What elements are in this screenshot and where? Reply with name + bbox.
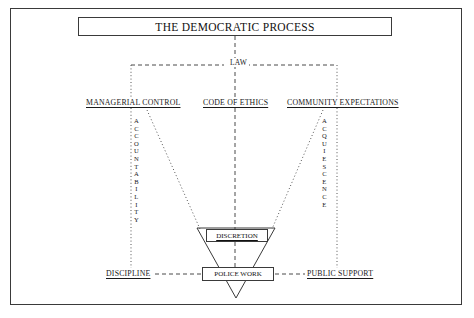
vertical-letter: U xyxy=(322,140,327,148)
vertical-label-accountability: A C C O U N T A B I L I T Y xyxy=(134,117,139,223)
vertical-letter: C xyxy=(322,193,326,201)
label-discipline: DISCIPLINE xyxy=(106,269,150,278)
page-title: THE DEMOCRATIC PROCESS xyxy=(155,21,314,33)
vertical-letter: E xyxy=(322,178,326,186)
vertical-letter: A xyxy=(134,117,139,125)
vertical-letter: C xyxy=(134,132,138,140)
vertical-letter: A xyxy=(134,170,139,178)
vertical-letter: C xyxy=(322,170,326,178)
diagram-canvas: THE DEMOCRATIC PROCESS LAW MANAGERIAL CO… xyxy=(0,0,474,318)
vertical-label-acquiescence: A C Q U I E S C E N C E xyxy=(322,117,327,208)
vertical-letter: T xyxy=(134,208,138,216)
label-law: LAW xyxy=(228,58,249,67)
label-discretion: DISCRETION xyxy=(216,232,258,240)
discretion-box: DISCRETION xyxy=(206,229,268,242)
vertical-letter: C xyxy=(322,125,326,133)
diagram-title-box: THE DEMOCRATIC PROCESS xyxy=(78,17,392,36)
label-public-support: PUBLIC SUPPORT xyxy=(307,269,373,278)
label-managerial-control: MANAGERIAL CONTROL xyxy=(86,98,181,107)
vertical-letter: I xyxy=(135,185,137,193)
vertical-letter: S xyxy=(323,163,327,171)
vertical-letter: U xyxy=(134,147,139,155)
vertical-letter: Q xyxy=(322,132,327,140)
vertical-letter: E xyxy=(322,201,326,209)
vertical-letter: L xyxy=(134,193,138,201)
vertical-letter: I xyxy=(135,201,137,209)
label-community-expectations: COMMUNITY EXPECTATIONS xyxy=(287,98,399,107)
label-code-of-ethics: CODE OF ETHICS xyxy=(203,98,268,107)
vertical-letter: A xyxy=(322,117,327,125)
vertical-letter: O xyxy=(134,140,139,148)
dotted-funnel-right xyxy=(272,110,323,229)
vertical-letter: T xyxy=(134,163,138,171)
vertical-letter: C xyxy=(134,125,138,133)
vertical-letter: Y xyxy=(134,216,139,224)
police-work-box: POLICE WORK xyxy=(202,267,274,281)
vertical-letter: N xyxy=(134,155,139,163)
label-police-work: POLICE WORK xyxy=(214,270,262,278)
vertical-letter: E xyxy=(322,155,326,163)
vertical-letter: I xyxy=(323,147,325,155)
vertical-letter: N xyxy=(322,185,327,193)
vertical-letter: B xyxy=(134,178,138,186)
dotted-funnel-left xyxy=(147,110,200,229)
